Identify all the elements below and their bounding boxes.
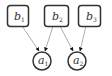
node-b1-base: b (14, 10, 21, 23)
edge-b2-a2 (60, 26, 73, 51)
node-b2-sub: 2 (59, 16, 63, 23)
node-b2-base: b (52, 10, 59, 23)
edges (22, 26, 86, 51)
node-a1: a1 (33, 52, 51, 70)
edge-b2-a1 (45, 26, 53, 51)
node-a1-sub: 1 (45, 60, 49, 67)
node-b1-sub: 1 (21, 16, 25, 23)
node-a2: a2 (68, 52, 86, 70)
node-b2: b2 (45, 6, 69, 27)
node-b1: b1 (8, 6, 29, 27)
node-b3: b3 (79, 6, 101, 27)
node-a2-sub: 2 (80, 60, 84, 67)
node-b3-sub: 3 (93, 16, 97, 23)
edge-b1-a1 (22, 26, 39, 51)
node-b3-base: b (86, 10, 93, 23)
edge-b3-a2 (80, 26, 86, 51)
bayesian-network-diagram: b1 b2 b3 a1 a2 (0, 0, 112, 76)
